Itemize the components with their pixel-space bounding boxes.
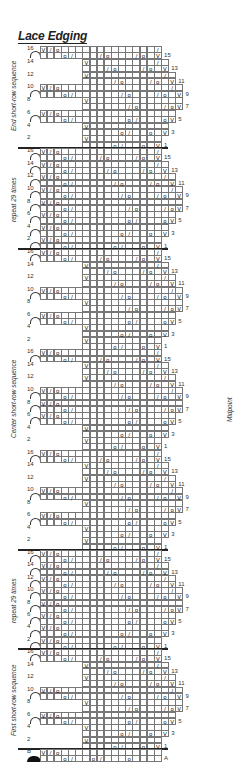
row-number-left: 8: [27, 298, 30, 304]
row-number-left: 8: [27, 499, 30, 505]
row-number-right: 11: [178, 78, 184, 84]
row-number-right: 9: [186, 393, 189, 399]
row-number-right: 9: [186, 693, 189, 699]
row-number-left: 4: [27, 524, 30, 530]
row-number-right: 3: [171, 331, 174, 337]
row-number-right: 5: [178, 618, 181, 624]
chart-cell: V: [161, 531, 169, 538]
row-number-right: 7: [186, 606, 189, 612]
row-number-right: 5: [178, 718, 181, 724]
row-number-right: 11: [178, 481, 184, 487]
chart-cell: V: [168, 718, 176, 725]
chart-cell: V: [161, 230, 169, 237]
row-number-left: 8: [27, 399, 30, 405]
row-number-right: 5: [178, 217, 181, 223]
row-number-left: 10: [27, 83, 34, 89]
row-number-left: 14: [27, 58, 34, 64]
row-number-left: 2: [27, 134, 30, 140]
section-label: repeat 29 times: [10, 578, 17, 623]
row-number-right: 3: [171, 531, 174, 537]
row-number-right: 7: [186, 506, 189, 512]
row-number-left: 14: [27, 661, 34, 667]
row-number-left: 4: [27, 122, 30, 128]
chart-cell: V: [175, 606, 183, 613]
row-number-right: 15: [164, 456, 171, 462]
chart-cell: V: [175, 705, 183, 712]
row-number-right: 5: [178, 116, 181, 122]
row-number-left: 14: [27, 561, 34, 567]
row-number-right: 15: [164, 556, 171, 562]
row-number-right: 13: [171, 368, 178, 374]
row-number-left: 12: [27, 273, 34, 279]
row-number-right: 13: [171, 65, 178, 71]
row-number-left: 14: [27, 160, 34, 166]
row-number-right: 11: [178, 680, 184, 686]
row-number-right: 3: [171, 730, 174, 736]
row-number-right: 3: [171, 431, 174, 437]
chart-cell: V: [161, 630, 169, 637]
row-number-left: 2: [27, 636, 30, 642]
section-label: repeat 29 times: [10, 177, 17, 222]
row-number-left: 8: [27, 96, 30, 102]
row-number-left: 4: [27, 623, 30, 629]
row-number-left: 16: [27, 648, 34, 654]
row-number-left: B: [27, 748, 31, 754]
row-number-right: 1: [164, 443, 167, 449]
chart-cell: V: [175, 103, 183, 110]
row-number-right: 15: [164, 356, 171, 362]
chart-cell: V: [168, 116, 176, 123]
row-number-left: 8: [27, 198, 30, 204]
section-label: Center short-row sequence: [10, 360, 17, 438]
row-number-right: 15: [164, 52, 171, 58]
chart-title: Lace Edging: [18, 30, 87, 44]
row-number-right: 13: [171, 569, 178, 575]
row-number-left: 6: [27, 711, 30, 717]
row-number-left: 16: [27, 45, 34, 51]
row-number-right: 13: [171, 268, 178, 274]
row-number-right: 7: [186, 305, 189, 311]
chart-cell: V: [161, 129, 169, 136]
chart-cell: V: [175, 406, 183, 413]
row-number-left: 10: [27, 486, 34, 492]
row-number-left: 4: [27, 223, 30, 229]
row-number-left: 6: [27, 511, 30, 517]
row-number-left: 10: [27, 686, 34, 692]
chart-cell: V: [168, 318, 176, 325]
row-number-left: 2: [27, 336, 30, 342]
row-number-left: 8: [27, 698, 30, 704]
section-label: End short-row sequence: [10, 61, 17, 131]
row-number-left: 4: [27, 323, 30, 329]
row-number-right: 3: [171, 129, 174, 135]
row-number-right: 5: [178, 418, 181, 424]
row-number-left: 10: [27, 286, 34, 292]
row-number-left: 12: [27, 373, 34, 379]
row-number-left: 8: [27, 599, 30, 605]
row-number-right: 1: [164, 343, 167, 349]
chart-cell: V: [161, 331, 169, 338]
row-number-right: 9: [186, 192, 189, 198]
row-number-left: 2: [27, 736, 30, 742]
midpoint-label: Midpoint: [226, 397, 233, 422]
row-number-right: A: [164, 755, 168, 761]
row-number-left: 4: [27, 723, 30, 729]
chart-cell: V: [168, 519, 176, 526]
row-number-right: 15: [164, 655, 171, 661]
row-number-left: 2: [27, 536, 30, 542]
chart-cell: V: [175, 305, 183, 312]
row-number-left: 10: [27, 386, 34, 392]
row-number-left: 12: [27, 71, 34, 77]
row-number-right: 7: [186, 205, 189, 211]
row-number-left: 16: [27, 147, 34, 153]
row-number-left: 16: [27, 348, 34, 354]
row-number-right: 7: [186, 406, 189, 412]
section-label: First short-row sequence: [10, 665, 17, 737]
row-number-right: 3: [171, 630, 174, 636]
row-number-left: 6: [27, 109, 30, 115]
chart-cell: V: [175, 506, 183, 513]
row-number-left: 2: [27, 235, 30, 241]
row-number-left: 10: [27, 185, 34, 191]
row-number-left: 6: [27, 210, 30, 216]
row-number-right: 13: [171, 668, 178, 674]
row-number-left: 6: [27, 611, 30, 617]
row-number-left: 12: [27, 673, 34, 679]
